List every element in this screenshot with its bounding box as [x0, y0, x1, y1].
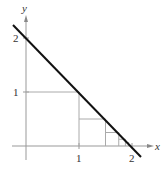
- y-axis-label: y: [21, 2, 27, 14]
- axes: [12, 15, 154, 160]
- x-axis-label: x: [154, 140, 160, 152]
- staircase-diagram: y x 1 2 1 2: [0, 0, 166, 176]
- x-axis-arrow-icon: [147, 144, 154, 148]
- y-tick-label-2: 2: [13, 32, 19, 44]
- x-tick-label-1: 1: [76, 152, 82, 164]
- staircase: [26, 92, 129, 146]
- x-tick-label-2: 2: [129, 152, 135, 164]
- line-y-equals-2-minus-x: [13, 25, 141, 157]
- y-tick-label-1: 1: [13, 86, 19, 98]
- y-axis-arrow-icon: [24, 15, 28, 22]
